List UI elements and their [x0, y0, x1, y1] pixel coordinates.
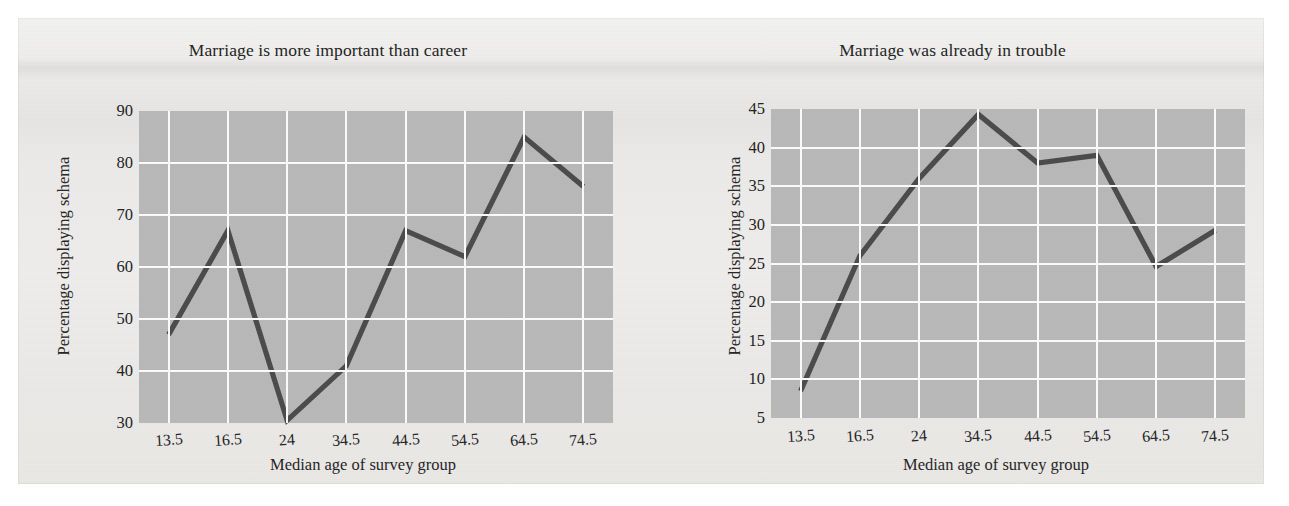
gridline-vertical [918, 109, 920, 418]
y-axis-tick-label: 40 [719, 139, 765, 156]
gridline-vertical [168, 111, 170, 423]
y-axis-tick-label: 15 [719, 333, 765, 350]
gridline-horizontal [771, 263, 1245, 265]
x-axis-tick-label: 54.5 [450, 430, 479, 450]
scanned-page: Marriage is more important than career P… [18, 18, 1264, 484]
x-axis-tick-label: 34.5 [964, 426, 993, 446]
x-axis-tick-label: 13.5 [786, 426, 815, 446]
gridline-vertical [859, 109, 861, 418]
y-axis-tick-label: 10 [719, 371, 765, 388]
y-axis-tick-label: 80 [87, 155, 133, 172]
gridline-horizontal [139, 162, 613, 164]
x-axis-ticks-left: 13.516.52434.544.554.564.574.5 [139, 431, 613, 457]
gridline-horizontal [771, 147, 1245, 149]
y-axis-tick-label: 30 [87, 415, 133, 432]
y-axis-tick-label: 30 [719, 217, 765, 234]
plot-area-right [771, 109, 1245, 418]
y-axis-tick-label: 90 [87, 103, 133, 120]
gridline-vertical [345, 111, 347, 423]
y-axis-tick-label: 45 [719, 101, 765, 118]
x-axis-tick-label: 24 [279, 430, 296, 449]
chart-panel-right: Marriage was already in trouble Percenta… [641, 18, 1264, 484]
gridline-horizontal [139, 318, 613, 320]
gridline-horizontal [139, 370, 613, 372]
x-axis-tick-label: 64.5 [1142, 426, 1171, 446]
gridline-vertical [582, 111, 584, 423]
y-axis-tick-label: 25 [719, 255, 765, 272]
gridline-vertical [1214, 109, 1216, 418]
y-axis-tick-label: 60 [87, 259, 133, 276]
plot-area-left [139, 111, 613, 423]
x-axis-tick-label: 74.5 [1201, 426, 1230, 446]
y-axis-ticks-left: 90807060504030 [81, 18, 133, 484]
x-axis-tick-label: 54.5 [1082, 426, 1111, 446]
x-axis-tick-label: 44.5 [1023, 426, 1052, 446]
gridline-horizontal [771, 185, 1245, 187]
gridline-vertical [1037, 109, 1039, 418]
gridline-vertical [800, 109, 802, 418]
chart-panel-left: Marriage is more important than career P… [18, 18, 638, 484]
gridline-vertical [405, 111, 407, 423]
x-axis-tick-label: 16.5 [213, 430, 242, 450]
gridline-horizontal [771, 224, 1245, 226]
gridline-vertical [464, 111, 466, 423]
gridline-horizontal [771, 378, 1245, 380]
gridline-vertical [523, 111, 525, 423]
gridline-horizontal [139, 266, 613, 268]
y-axis-tick-label: 50 [87, 311, 133, 328]
x-axis-tick-label: 64.5 [510, 430, 539, 450]
x-axis-tick-label: 13.5 [154, 430, 183, 450]
x-axis-ticks-right: 13.516.52434.544.554.564.574.5 [771, 427, 1245, 453]
gridline-vertical [286, 111, 288, 423]
y-axis-tick-label: 20 [719, 294, 765, 311]
y-axis-ticks-right: 45403530252015105 [713, 18, 765, 484]
x-axis-tick-label: 16.5 [845, 426, 874, 446]
gridline-vertical [227, 111, 229, 423]
y-axis-label-left: Percentage displaying schema [54, 106, 74, 406]
y-axis-tick-label: 5 [719, 410, 765, 427]
x-axis-label-left: Median age of survey group [118, 455, 608, 475]
y-axis-tick-label: 40 [87, 363, 133, 380]
gridline-vertical [1155, 109, 1157, 418]
x-axis-tick-label: 74.5 [569, 430, 598, 450]
x-axis-tick-label: 24 [911, 426, 928, 445]
gridline-horizontal [139, 214, 613, 216]
y-axis-tick-label: 70 [87, 207, 133, 224]
x-axis-label-right: Median age of survey group [751, 455, 1241, 475]
gridline-horizontal [771, 301, 1245, 303]
gridline-vertical [1096, 109, 1098, 418]
x-axis-tick-label: 34.5 [332, 430, 361, 450]
x-axis-tick-label: 44.5 [391, 430, 420, 450]
gridline-horizontal [771, 340, 1245, 342]
gridline-vertical [977, 109, 979, 418]
y-axis-tick-label: 35 [719, 178, 765, 195]
